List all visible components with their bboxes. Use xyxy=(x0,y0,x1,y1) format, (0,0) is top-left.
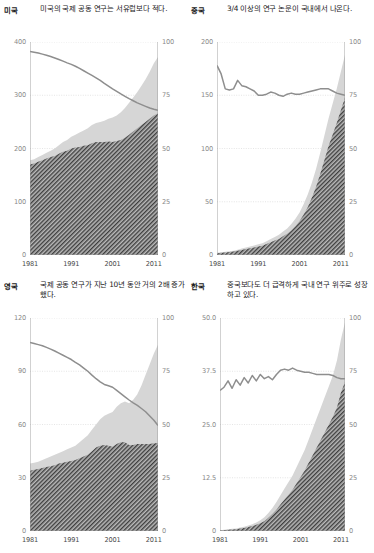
x-tick-label: 1991 xyxy=(244,260,272,268)
y-tick-label-right: 0 xyxy=(349,251,371,259)
y-tick-label-right: 75 xyxy=(349,367,371,375)
y-tick-label-left: 100 xyxy=(188,145,213,153)
x-tick-label: 2001 xyxy=(99,536,127,544)
y-tick-label-left: 0 xyxy=(188,251,213,259)
series-domestic-share-percent xyxy=(217,65,345,96)
y-tick-label-right: 50 xyxy=(162,145,184,153)
series-domestic-only-publications xyxy=(217,97,345,255)
chart-canvas-korea xyxy=(220,318,345,531)
y-tick-label-right: 0 xyxy=(349,527,371,535)
panel-country-label-china: 중국 xyxy=(191,4,225,15)
panel-header-usa: 미국 미국의 국제 공동 연구는 서유럽보다 적다. xyxy=(4,4,185,30)
chart-uk xyxy=(30,318,158,531)
y-tick-label-right: 50 xyxy=(162,421,184,429)
x-tick-label: 1981 xyxy=(16,536,44,544)
y-tick-label-left: 150 xyxy=(188,91,213,99)
x-tick-label: 1981 xyxy=(206,536,234,544)
y-tick-label-right: 25 xyxy=(162,474,184,482)
panel-china: 중국 3/4 이상의 연구 논문이 국내에서 나온다. 050100150200… xyxy=(187,0,374,276)
panel-header-korea: 한국 중국보다도 더 급격하게 국내 연구 위주로 성장하고 있다. xyxy=(191,280,372,306)
panel-description-korea: 중국보다도 더 급격하게 국내 연구 위주로 성장하고 있다. xyxy=(227,280,372,300)
x-tick-label: 2001 xyxy=(287,536,315,544)
panel-usa: 미국 미국의 국제 공동 연구는 서유럽보다 적다. 0100200300400… xyxy=(0,0,187,276)
chart-china xyxy=(217,42,345,255)
panel-description-china: 3/4 이상의 연구 논문이 국내에서 나온다. xyxy=(227,4,372,14)
chart-korea xyxy=(220,318,345,531)
y-tick-label-right: 25 xyxy=(349,198,371,206)
y-tick-label-left: 0 xyxy=(1,527,26,535)
y-tick-label-right: 100 xyxy=(162,314,184,322)
x-tick-label: 2011 xyxy=(327,536,355,544)
x-tick-label: 2011 xyxy=(140,536,168,544)
y-tick-label-left: 25.0 xyxy=(191,421,216,429)
x-tick-label: 2011 xyxy=(140,260,168,268)
y-tick-label-left: 12.5 xyxy=(191,474,216,482)
y-tick-label-left: 120 xyxy=(1,314,26,322)
y-tick-label-left: 200 xyxy=(1,145,26,153)
y-tick-label-right: 25 xyxy=(349,474,371,482)
chart-usa xyxy=(30,42,158,255)
x-tick-label: 1991 xyxy=(57,536,85,544)
y-tick-label-left: 200 xyxy=(188,38,213,46)
y-tick-label-left: 37.5 xyxy=(191,367,216,375)
chart-canvas-uk xyxy=(30,318,158,531)
chart-canvas-usa xyxy=(30,42,158,255)
y-tick-label-left: 0 xyxy=(191,527,216,535)
panel-header-uk: 영국 국제 공동 연구가 지난 10년 동안 거의 2배 증가했다. xyxy=(4,280,185,306)
panel-korea: 한국 중국보다도 더 급격하게 국내 연구 위주로 성장하고 있다. 012.5… xyxy=(187,276,374,553)
panel-uk: 영국 국제 공동 연구가 지난 10년 동안 거의 2배 증가했다. 03060… xyxy=(0,276,187,553)
y-tick-label-right: 100 xyxy=(349,38,371,46)
y-tick-label-left: 50 xyxy=(188,198,213,206)
y-tick-label-right: 50 xyxy=(349,421,371,429)
x-tick-label: 1981 xyxy=(16,260,44,268)
x-tick-label: 2001 xyxy=(99,260,127,268)
y-tick-label-right: 75 xyxy=(162,91,184,99)
panel-description-usa: 미국의 국제 공동 연구는 서유럽보다 적다. xyxy=(40,4,185,14)
y-tick-label-right: 75 xyxy=(162,367,184,375)
panel-country-label-korea: 한국 xyxy=(191,280,225,291)
y-tick-label-left: 30 xyxy=(1,474,26,482)
figure-grid: 미국 미국의 국제 공동 연구는 서유럽보다 적다. 0100200300400… xyxy=(0,0,374,553)
y-tick-label-left: 400 xyxy=(1,38,26,46)
y-tick-label-right: 0 xyxy=(162,527,184,535)
y-tick-label-right: 25 xyxy=(162,198,184,206)
y-tick-label-left: 100 xyxy=(1,198,26,206)
y-tick-label-right: 0 xyxy=(162,251,184,259)
x-tick-label: 1991 xyxy=(57,260,85,268)
chart-canvas-china xyxy=(217,42,345,255)
panel-country-label-uk: 영국 xyxy=(4,280,38,291)
y-tick-label-left: 0 xyxy=(1,251,26,259)
y-tick-label-left: 60 xyxy=(1,421,26,429)
y-tick-label-right: 100 xyxy=(349,314,371,322)
x-tick-label: 2011 xyxy=(327,260,355,268)
panel-description-uk: 국제 공동 연구가 지난 10년 동안 거의 2배 증가했다. xyxy=(40,280,185,300)
panel-header-china: 중국 3/4 이상의 연구 논문이 국내에서 나온다. xyxy=(191,4,372,30)
y-tick-label-left: 300 xyxy=(1,91,26,99)
x-tick-label: 1981 xyxy=(203,260,231,268)
y-tick-label-left: 50.0 xyxy=(191,314,216,322)
y-tick-label-right: 50 xyxy=(349,145,371,153)
y-tick-label-right: 75 xyxy=(349,91,371,99)
y-tick-label-right: 100 xyxy=(162,38,184,46)
x-tick-label: 2001 xyxy=(286,260,314,268)
series-domestic-only-publications xyxy=(30,442,158,531)
panel-country-label-usa: 미국 xyxy=(4,4,38,15)
x-tick-label: 1991 xyxy=(246,536,274,544)
y-tick-label-left: 90 xyxy=(1,367,26,375)
